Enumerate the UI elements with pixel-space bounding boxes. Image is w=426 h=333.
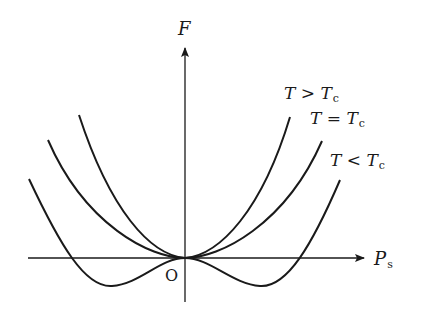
x-axis-label-sub: s: [387, 258, 393, 271]
origin-label: O: [165, 266, 178, 285]
label-below-tc: T < Tc: [330, 150, 385, 170]
label-below-tc-sub: c: [379, 159, 385, 172]
y-axis-label: F: [178, 18, 191, 39]
label-at-tc-sub: c: [359, 117, 365, 130]
x-axis-label: Ps: [374, 248, 393, 269]
label-above-tc: T > Tc: [284, 83, 339, 103]
label-at-tc-main: T = T: [310, 108, 358, 128]
label-below-tc-main: T < T: [330, 150, 378, 170]
label-above-tc-sub: c: [333, 92, 339, 105]
label-above-tc-main: T > T: [284, 83, 332, 103]
diagram-canvas: F O Ps T > Tc T = Tc T < Tc: [0, 0, 426, 333]
label-at-tc: T = Tc: [310, 108, 365, 128]
x-axis-label-main: P: [374, 248, 386, 269]
